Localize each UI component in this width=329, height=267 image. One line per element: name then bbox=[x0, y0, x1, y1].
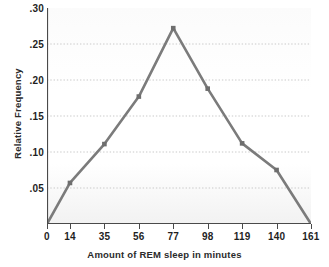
x-axis-tick-mark bbox=[208, 224, 209, 229]
rem-sleep-frequency-polygon-chart: Relative Frequency .30.25.20.15.10.05 01… bbox=[0, 0, 329, 267]
data-line-series bbox=[47, 28, 311, 224]
x-axis-title: Amount of REM sleep in minutes bbox=[0, 249, 329, 260]
x-axis-tick-label: 140 bbox=[268, 231, 285, 242]
data-point-marker bbox=[205, 86, 210, 91]
x-axis-tick-label: 77 bbox=[167, 231, 179, 242]
y-axis-tick-label: .30 bbox=[29, 3, 44, 14]
y-axis-tick-label: .25 bbox=[29, 39, 44, 50]
x-axis-tick-label: 98 bbox=[202, 231, 214, 242]
x-axis-tick-mark bbox=[311, 224, 312, 229]
data-point-marker bbox=[137, 94, 142, 99]
y-axis-tick-labels: .30.25.20.15.10.05 bbox=[18, 0, 44, 267]
x-axis-tick-labels: 01435567798119140161 bbox=[0, 231, 329, 247]
x-axis-tick-mark bbox=[70, 224, 71, 229]
data-point-marker bbox=[240, 141, 245, 146]
x-axis-tick-mark bbox=[104, 224, 105, 229]
y-axis-tick-label: .20 bbox=[29, 75, 44, 86]
data-point-marker bbox=[68, 181, 73, 186]
x-axis-tick-label: 14 bbox=[64, 231, 76, 242]
x-axis-tick-mark bbox=[242, 224, 243, 229]
x-axis-tick-label: 161 bbox=[302, 231, 319, 242]
x-axis-tick-label: 35 bbox=[99, 231, 111, 242]
data-point-marker bbox=[274, 168, 279, 173]
data-point-marker bbox=[171, 26, 176, 31]
x-axis-tick-mark bbox=[139, 224, 140, 229]
x-axis-tick-label: 56 bbox=[133, 231, 145, 242]
x-axis-tick-mark bbox=[173, 224, 174, 229]
plot-area bbox=[47, 8, 311, 224]
y-axis-tick-label: .05 bbox=[29, 183, 44, 194]
x-axis-tick-label: 0 bbox=[44, 231, 50, 242]
data-point-marker bbox=[102, 142, 107, 147]
y-axis-tick-label: .10 bbox=[29, 147, 44, 158]
x-axis-tick-mark bbox=[47, 224, 48, 229]
x-axis-tick-label: 119 bbox=[234, 231, 251, 242]
frequency-polygon-plot bbox=[47, 8, 311, 224]
x-axis-tick-mark bbox=[277, 224, 278, 229]
y-axis-tick-label: .15 bbox=[29, 111, 44, 122]
